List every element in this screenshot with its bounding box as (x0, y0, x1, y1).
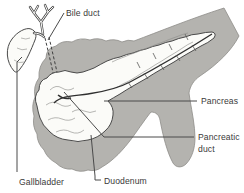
label-pancreatic-duct-line2: duct (198, 144, 215, 154)
gallbladder-leader (17, 57, 22, 172)
label-pancreatic-duct-line1: Pancreatic (198, 132, 240, 142)
label-pancreas: Pancreas (201, 96, 238, 106)
label-duodenum: Duodenum (104, 176, 147, 186)
diagram-canvas: Bile duct Pancreas Pancreatic duct Gallb… (0, 0, 244, 193)
anatomy-diagram: Bile duct Pancreas Pancreatic duct Gallb… (0, 0, 244, 193)
hepatic-duct-tubes (30, 5, 53, 37)
label-bile-duct: Bile duct (66, 8, 100, 18)
bile-duct-leader (48, 13, 64, 40)
gallbladder-shape (7, 29, 36, 72)
label-gallbladder: Gallbladder (19, 177, 64, 187)
